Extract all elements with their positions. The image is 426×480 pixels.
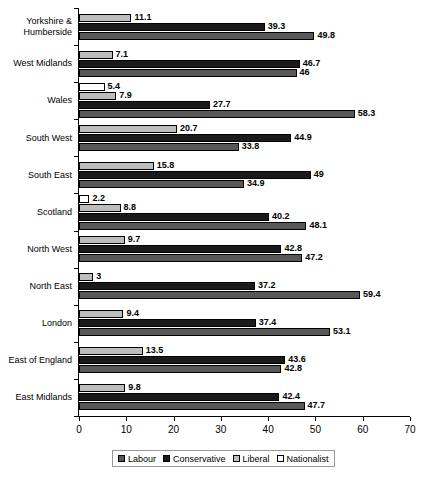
bar-conservative[interactable] (79, 171, 311, 179)
bar-liberal[interactable] (79, 14, 131, 22)
category-label: South West (0, 133, 72, 144)
bar-labour[interactable] (79, 32, 314, 40)
bar-liberal[interactable] (79, 384, 125, 392)
x-axis-tick (126, 417, 127, 421)
bar-conservative[interactable] (79, 213, 269, 221)
x-axis-tick (221, 417, 222, 421)
bar-labour[interactable] (79, 365, 281, 373)
bar-value-label: 8.8 (121, 202, 137, 212)
category-label-line: Scotland (0, 207, 72, 218)
bar-value-label: 7.1 (113, 49, 129, 59)
bar-liberal[interactable] (79, 310, 123, 318)
bar-value-label: 46 (297, 67, 310, 77)
category-label: North West (0, 244, 72, 255)
bar-chart: Yorkshire &Humberside11.139.349.8West Mi… (0, 0, 426, 480)
bar-value-label: 53.1 (330, 326, 351, 336)
bar-nationalist[interactable] (79, 83, 105, 91)
legend-item-labour[interactable]: Labour (118, 454, 156, 464)
legend-label: Liberal (243, 454, 270, 464)
legend-label: Labour (128, 454, 156, 464)
category-label: South East (0, 170, 72, 181)
bar-liberal[interactable] (79, 236, 125, 244)
y-axis-tick (74, 379, 79, 380)
y-axis-tick (74, 8, 79, 9)
bar-liberal[interactable] (79, 92, 116, 100)
y-axis-tick (74, 82, 79, 83)
y-axis-tick (74, 156, 79, 157)
bar-nationalist[interactable] (79, 195, 89, 203)
bar-conservative[interactable] (79, 393, 279, 401)
bar-value-label: 58.3 (355, 108, 376, 118)
bar-value-label: 49.8 (314, 30, 335, 40)
category-label-line: West Midlands (0, 58, 72, 69)
x-axis-line (78, 416, 410, 417)
bar-conservative[interactable] (79, 60, 300, 68)
x-axis-tick-label: 30 (206, 424, 236, 435)
x-axis-tick (174, 417, 175, 421)
legend-item-conservative[interactable]: Conservative (163, 454, 226, 464)
y-axis-tick (74, 45, 79, 46)
bar-labour[interactable] (79, 143, 239, 151)
bar-labour[interactable] (79, 222, 306, 230)
bar-conservative[interactable] (79, 319, 256, 327)
bar-conservative[interactable] (79, 282, 255, 290)
category-label-line: South East (0, 170, 72, 181)
bar-labour[interactable] (79, 402, 305, 410)
bar-labour[interactable] (79, 291, 360, 299)
bar-liberal[interactable] (79, 51, 113, 59)
bar-value-label: 42.8 (281, 243, 302, 253)
bar-conservative[interactable] (79, 23, 265, 31)
bar-value-label: 42.4 (279, 391, 300, 401)
bar-liberal[interactable] (79, 347, 143, 355)
legend-swatch-icon (277, 455, 284, 462)
bar-value-label: 20.7 (177, 123, 198, 133)
bar-labour[interactable] (79, 254, 302, 262)
y-axis-tick (74, 119, 79, 120)
bar-value-label: 37.4 (256, 317, 277, 327)
bar-liberal[interactable] (79, 162, 154, 170)
bar-value-label: 2.2 (89, 193, 105, 203)
category-label-line: Yorkshire & (0, 16, 72, 27)
x-axis-tick-label: 50 (300, 424, 330, 435)
bar-labour[interactable] (79, 69, 297, 77)
legend-item-liberal[interactable]: Liberal (233, 454, 270, 464)
bar-labour[interactable] (79, 328, 330, 336)
legend-label: Nationalist (287, 454, 329, 464)
bar-conservative[interactable] (79, 356, 285, 364)
category-label: East Midlands (0, 392, 72, 403)
x-axis-tick-label: 60 (348, 424, 378, 435)
bar-value-label: 27.7 (210, 99, 231, 109)
bar-value-label: 48.1 (306, 220, 327, 230)
legend-item-nationalist[interactable]: Nationalist (277, 454, 329, 464)
bar-labour[interactable] (79, 110, 355, 118)
bar-labour[interactable] (79, 180, 244, 188)
bar-value-label: 37.2 (255, 280, 276, 290)
bar-value-label: 13.5 (143, 345, 164, 355)
bar-value-label: 9.4 (123, 308, 139, 318)
bar-value-label: 33.8 (239, 141, 260, 151)
category-label: East of England (0, 355, 72, 366)
bar-value-label: 47.2 (302, 252, 323, 262)
y-axis-tick (74, 193, 79, 194)
x-axis-tick-label: 70 (395, 424, 425, 435)
bar-liberal[interactable] (79, 204, 121, 212)
category-label-line: Wales (0, 95, 72, 106)
chart-legend: LabourConservativeLiberalNationalist (112, 450, 335, 467)
legend-swatch-icon (118, 455, 125, 462)
x-axis-tick (410, 417, 411, 421)
bar-value-label: 47.7 (305, 400, 326, 410)
bar-conservative[interactable] (79, 101, 210, 109)
legend-swatch-icon (163, 455, 170, 462)
bar-value-label: 59.4 (360, 289, 381, 299)
x-axis-tick (315, 417, 316, 421)
bar-conservative[interactable] (79, 245, 281, 253)
bar-liberal[interactable] (79, 273, 93, 281)
legend-swatch-icon (233, 455, 240, 462)
x-axis-tick (268, 417, 269, 421)
bar-conservative[interactable] (79, 134, 291, 142)
category-label-line: North East (0, 281, 72, 292)
bar-liberal[interactable] (79, 125, 177, 133)
category-label: London (0, 318, 72, 329)
legend-label: Conservative (173, 454, 226, 464)
bar-value-label: 9.7 (125, 234, 141, 244)
